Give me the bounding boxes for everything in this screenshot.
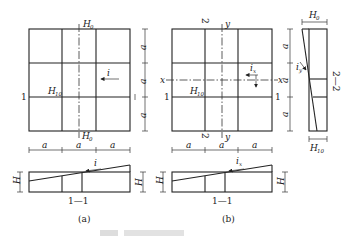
svg-text:0: 0 — [90, 24, 94, 30]
svg-text:a: a — [280, 78, 290, 83]
svg-text:1—1: 1—1 — [68, 196, 88, 206]
section-a-1-1: i H H 1—1 (a) — [12, 158, 146, 224]
roof-drainage-diagram: H 0 H 0 H 10 i 1 a a a a a a i — [0, 0, 347, 238]
svg-text:1: 1 — [164, 92, 170, 102]
svg-text:H: H — [276, 177, 286, 186]
svg-text:10: 10 — [317, 148, 324, 154]
svg-text:10: 10 — [197, 91, 204, 97]
svg-text:(b): (b) — [222, 214, 235, 224]
plan-a: H 0 H 0 H 10 i 1 a a a a a a — [21, 19, 148, 153]
svg-text:i: i — [107, 68, 110, 78]
figure-caption — [100, 230, 184, 236]
svg-text:x: x — [239, 161, 243, 167]
svg-text:0: 0 — [89, 136, 93, 142]
svg-text:a: a — [219, 140, 224, 150]
svg-text:H: H — [155, 176, 165, 185]
svg-text:i: i — [94, 158, 97, 168]
svg-text:a: a — [138, 79, 148, 84]
svg-text:a: a — [76, 140, 81, 150]
svg-text:H: H — [12, 176, 22, 185]
svg-text:a: a — [138, 113, 148, 118]
svg-text:2—2: 2—2 — [331, 71, 341, 91]
svg-text:H: H — [134, 178, 144, 187]
svg-text:a: a — [280, 44, 290, 49]
plan-b: y y x x 2 2 1 1 H 10 i x a a a a a a — [160, 18, 293, 153]
svg-text:a: a — [138, 45, 148, 50]
svg-text:0: 0 — [316, 15, 320, 21]
svg-text:y: y — [224, 19, 231, 29]
svg-text:x: x — [160, 75, 165, 85]
svg-text:1—1: 1—1 — [212, 196, 232, 206]
svg-text:a: a — [42, 140, 47, 150]
diagram-canvas: H 0 H 0 H 10 i 1 a a a a a a i — [0, 0, 347, 238]
section-b-1-1: i x H H 1—1 (b) — [155, 156, 288, 224]
svg-text:x: x — [253, 68, 257, 74]
svg-text:10: 10 — [55, 91, 62, 97]
section-b-2-2: i y H 0 H 10 2—2 — [296, 10, 341, 154]
svg-text:(a): (a) — [78, 214, 90, 224]
svg-text:2: 2 — [200, 18, 210, 24]
svg-text:a: a — [280, 112, 290, 117]
svg-text:1: 1 — [21, 92, 27, 102]
svg-text:y: y — [298, 67, 303, 74]
svg-text:1: 1 — [275, 92, 281, 102]
svg-text:y: y — [224, 132, 231, 142]
svg-text:2: 2 — [200, 133, 210, 139]
svg-text:a: a — [110, 140, 115, 150]
svg-text:a: a — [186, 140, 191, 150]
svg-text:a: a — [252, 140, 257, 150]
